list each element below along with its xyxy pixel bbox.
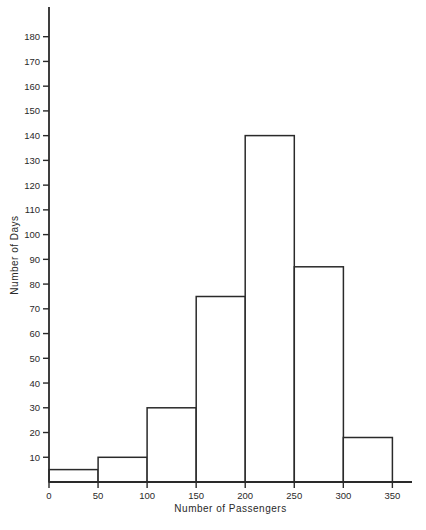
y-tick-label: 90 [29,254,40,265]
histogram-bar [49,470,98,482]
x-axis-title: Number of Passengers [49,503,412,514]
histogram-bar [294,267,343,482]
histogram-figure: 1020304050607080901001101201301401501601… [0,0,426,530]
y-tick-label: 40 [29,378,40,389]
y-tick-label: 50 [29,353,40,364]
y-tick-label: 20 [29,427,40,438]
x-tick-label: 100 [139,490,155,501]
y-axis-title: Number of Days [9,215,20,294]
histogram-bar [245,136,294,482]
y-tick-label: 120 [24,180,40,191]
y-tick-label: 30 [29,402,40,413]
x-tick-label: 200 [237,490,253,501]
x-tick-label: 50 [93,490,104,501]
x-tick-label: 350 [384,490,400,501]
histogram-chart: 1020304050607080901001101201301401501601… [0,0,426,530]
y-tick-label: 130 [24,155,40,166]
y-tick-label: 70 [29,303,40,314]
x-tick-label: 300 [335,490,351,501]
y-tick-label: 60 [29,328,40,339]
y-tick-label: 10 [29,452,40,463]
histogram-bar [98,457,147,482]
y-tick-label: 180 [24,31,40,42]
y-tick-label: 150 [24,105,40,116]
y-tick-label: 100 [24,229,40,240]
y-tick-label: 80 [29,279,40,290]
histogram-bar [343,438,392,483]
y-tick-label: 160 [24,81,40,92]
histogram-bar [147,408,196,482]
y-tick-label: 140 [24,130,40,141]
x-tick-label: 150 [188,490,204,501]
x-tick-label: 250 [286,490,302,501]
y-tick-label: 170 [24,56,40,67]
x-tick-label: 0 [46,490,51,501]
y-tick-label: 110 [25,204,40,215]
histogram-bar [196,297,245,483]
